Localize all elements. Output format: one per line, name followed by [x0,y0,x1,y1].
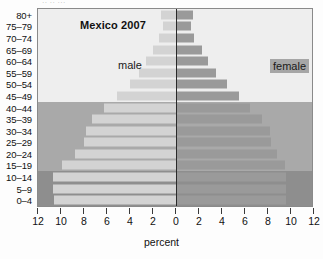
bar-male-0–4 [54,196,176,205]
x-tick-mark [106,208,107,214]
bar-male-30–34 [86,126,176,135]
x-tick-mark [290,208,291,214]
y-tick-30–34: 30–34 [6,125,32,136]
x-tick-label: 8 [81,215,87,227]
pyramid-row [38,160,312,172]
x-tick-mark [152,208,153,214]
pyramid-row [38,171,312,183]
x-tick-label: 6 [104,215,110,227]
pyramid-row [38,136,312,148]
bar-female-20–24 [176,149,277,158]
pyramid-row [38,194,312,206]
y-tick-75–79: 75–79 [6,21,32,32]
population-pyramid-figure: ·· ·· ··· Mexico 2007 male female 0–45–9… [0,0,323,259]
x-tick-label: 10 [55,215,67,227]
bar-female-80+ [176,10,193,19]
x-tick-mark [175,208,176,214]
bar-male-50–54 [130,80,176,89]
y-tick-45–49: 45–49 [6,90,32,101]
bar-male-10–14 [53,173,176,182]
y-tick-5–9: 5–9 [16,183,32,194]
x-tick-label: 2 [196,215,202,227]
bar-male-65–69 [153,45,176,54]
zero-axis-line [176,9,177,206]
y-axis-age-labels: 0–45–910–1415–1920–2425–2930–3435–3940–4… [0,8,35,207]
x-tick-mark [37,208,38,214]
bar-male-20–24 [75,149,176,158]
bar-female-0–4 [176,196,286,205]
x-tick-mark [198,208,199,214]
plot-area: Mexico 2007 male female [37,8,313,207]
x-tick-mark [313,208,314,214]
x-tick-label: 4 [219,215,225,227]
pyramid-row [38,148,312,160]
bar-female-15–19 [176,161,285,170]
chart-title: Mexico 2007 [80,19,146,31]
x-tick-label: 4 [127,215,133,227]
bar-female-35–39 [176,115,262,124]
pyramid-row [38,183,312,195]
y-tick-20–24: 20–24 [6,148,32,159]
bar-male-80+ [161,10,176,19]
y-tick-60–64: 60–64 [6,56,32,67]
pyramid-row [38,125,312,137]
x-axis-ticks [37,208,313,215]
x-tick-label: 0 [173,215,179,227]
bar-male-45–49 [117,91,176,100]
bar-female-70–74 [176,33,194,42]
bar-female-50–54 [176,80,227,89]
bar-male-5–9 [53,184,176,193]
y-tick-55–59: 55–59 [6,67,32,78]
series-label-female: female [270,59,309,73]
x-tick-label: 10 [285,215,297,227]
bar-female-30–34 [176,126,270,135]
bar-male-70–74 [159,33,176,42]
bar-male-60–64 [146,57,176,66]
bar-female-60–64 [176,57,208,66]
x-tick-label: 2 [150,215,156,227]
y-tick-40–44: 40–44 [6,102,32,113]
pyramid-row [38,90,312,102]
y-tick-25–29: 25–29 [6,137,32,148]
pyramid-row [38,32,312,44]
bar-male-75–79 [163,22,176,31]
series-label-male: male [118,59,142,71]
bar-female-5–9 [176,184,286,193]
bar-female-55–59 [176,68,216,77]
x-tick-mark [221,208,222,214]
bar-female-40–44 [176,103,250,112]
x-tick-mark [244,208,245,214]
bar-male-25–29 [84,138,176,147]
pyramid-row [38,79,312,91]
x-tick-mark [83,208,84,214]
x-tick-mark [129,208,130,214]
bar-male-35–39 [92,115,176,124]
pyramid-row [38,44,312,56]
y-tick-15–19: 15–19 [6,160,32,171]
x-tick-mark [267,208,268,214]
bar-male-40–44 [104,103,176,112]
y-tick-65–69: 65–69 [6,44,32,55]
scan-artifact-text: ·· ·· ··· [42,0,162,5]
bar-male-15–19 [62,161,176,170]
x-tick-label: 6 [242,215,248,227]
x-tick-mark [60,208,61,214]
bar-female-45–49 [176,91,239,100]
y-tick-70–74: 70–74 [6,32,32,43]
y-tick-35–39: 35–39 [6,114,32,125]
x-tick-label: 8 [265,215,271,227]
x-axis-title: percent [0,236,323,248]
pyramid-row [38,102,312,114]
bar-female-75–79 [176,22,191,31]
y-tick-10–14: 10–14 [6,172,32,183]
x-tick-label: 12 [32,215,44,227]
bar-female-65–69 [176,45,202,54]
y-tick-0–4: 0–4 [16,195,32,206]
y-tick-80+: 80+ [16,9,32,20]
y-tick-50–54: 50–54 [6,79,32,90]
bar-male-55–59 [139,68,176,77]
bar-female-10–14 [176,173,286,182]
bar-female-25–29 [176,138,271,147]
pyramid-row [38,113,312,125]
x-tick-label: 12 [308,215,320,227]
